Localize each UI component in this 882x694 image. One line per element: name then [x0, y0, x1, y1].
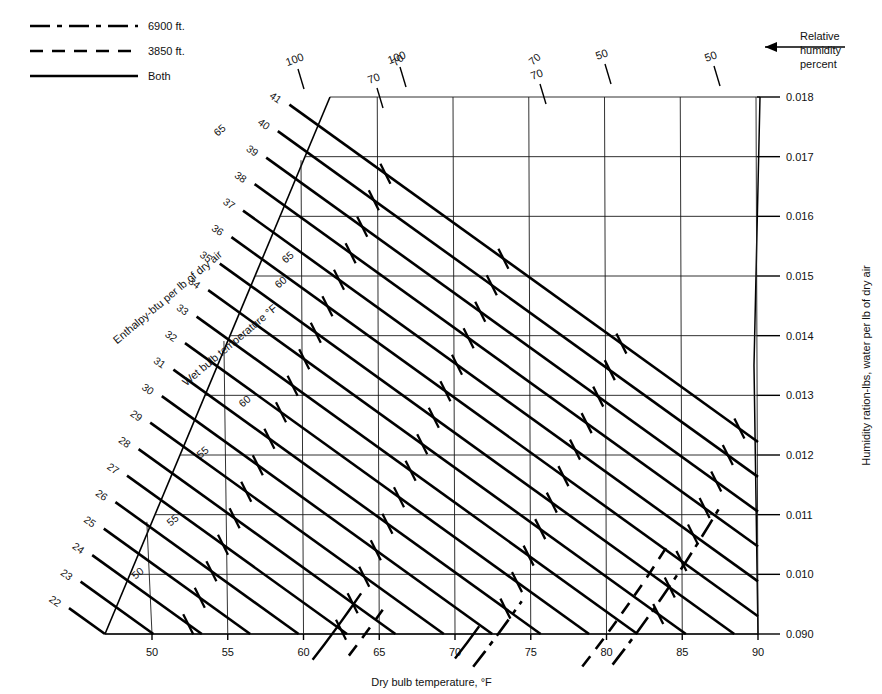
rh-label: 50	[594, 47, 610, 62]
legend-label-0: 6900 ft.	[148, 20, 185, 32]
wetbulb-tick	[230, 508, 240, 528]
enthalpy-label: 31	[151, 354, 168, 371]
rh-label-leader	[400, 67, 406, 87]
tick-label-drybulb: 60	[297, 646, 309, 658]
wetbulb-tick	[547, 493, 557, 513]
enthalpy-label: 33	[175, 301, 192, 318]
wetbulb-tick	[535, 519, 545, 539]
wetbulb-tick	[206, 561, 216, 581]
wetbulb-tick	[605, 360, 615, 380]
gridline-drybulb	[147, 522, 152, 634]
rh-note-line3: percent	[800, 58, 837, 70]
wetbulb-tick	[183, 614, 193, 634]
wetbulb-tick	[500, 599, 510, 619]
wetbulb-tick	[570, 440, 580, 460]
rh-label: 50	[703, 49, 719, 64]
wetbulb-tick	[359, 567, 369, 587]
enthalpy-line	[220, 264, 734, 634]
enthalpy-label: 41	[267, 89, 284, 106]
enthalpy-line	[278, 131, 758, 477]
tick-label-humidity: 0.017	[786, 151, 814, 163]
enthalpy-line	[81, 582, 154, 634]
enthalpy-line	[104, 529, 250, 634]
enthalpy-label: 37	[221, 195, 238, 212]
wetbulb-tick	[264, 429, 274, 449]
gridline-drybulb	[224, 341, 228, 634]
enthalpy-line	[150, 423, 444, 634]
enthalpy-label: 26	[93, 487, 110, 504]
tick-label-humidity: 0.013	[786, 389, 814, 401]
tick-label-humidity: 0.014	[786, 330, 814, 342]
enthalpy-label: 27	[105, 460, 122, 477]
enthalpy-label: 24	[70, 540, 87, 557]
psychrometric-chart: 0.0180.0170.0160.0150.0140.0130.0120.011…	[0, 0, 882, 694]
wetbulb-tick	[394, 487, 404, 507]
tick-label-drybulb: 55	[222, 646, 234, 658]
enthalpy-line	[231, 237, 758, 616]
wetbulb-tick	[334, 270, 344, 290]
rh-label: 100	[284, 50, 305, 68]
wetbulb-tick	[512, 572, 522, 592]
rh-label: 100	[386, 48, 407, 66]
tick-label-humidity: 0.010	[786, 568, 814, 580]
wetbulb-tick	[382, 514, 392, 534]
tick-label-humidity: 0.016	[786, 210, 814, 222]
wetbulb-tick	[524, 546, 534, 566]
wetbulb-tick	[464, 328, 474, 348]
enthalpy-label: 22	[47, 593, 64, 610]
gridline-drybulb	[301, 160, 303, 634]
wetbulb-label: 65	[279, 248, 296, 265]
gridline-drybulb	[529, 97, 531, 634]
wetbulb-tick	[440, 381, 450, 401]
chart-canvas: 0.0180.0170.0160.0150.0140.0130.0120.011…	[0, 0, 882, 694]
enthalpy-label: 25	[82, 513, 99, 530]
tick-label-drybulb: 50	[146, 646, 158, 658]
rh-label-leader	[540, 84, 546, 104]
wetbulb-tick	[417, 434, 427, 454]
tick-label-drybulb: 65	[373, 646, 385, 658]
enthalpy-label: 38	[233, 169, 250, 186]
wetbulb-tick	[241, 482, 251, 502]
tick-label-humidity: 0.012	[786, 449, 814, 461]
enthalpy-line	[92, 555, 202, 634]
tick-label-drybulb: 75	[525, 646, 537, 658]
legend-label-1: 3850 ft.	[148, 45, 185, 57]
wetbulb-label: 70	[526, 50, 543, 67]
tick-label-humidity: 0.018	[786, 91, 814, 103]
enthalpy-line	[173, 370, 540, 634]
wetbulb-tick	[688, 525, 698, 545]
x-axis-title: Dry bulb temperature, °F	[371, 676, 492, 688]
enthalpy-label: 36	[209, 222, 226, 239]
rh-label: 70	[366, 71, 382, 86]
enthalpy-label: 29	[128, 407, 145, 424]
rh-label-leader	[605, 64, 611, 84]
gridline-drybulb	[453, 97, 455, 634]
wetbulb-tick	[288, 376, 298, 396]
wetbulb-tick	[593, 387, 603, 407]
tick-label-humidity: 0.011	[786, 509, 813, 521]
tick-label-drybulb: 80	[600, 646, 612, 658]
wetbulb-tick	[195, 588, 205, 608]
wetbulb-tick	[299, 349, 309, 369]
rh-label-leader	[298, 69, 304, 89]
legend-label-2: Both	[148, 70, 171, 82]
wetbulb-label: 65	[211, 121, 228, 138]
wetbulb-label: 55	[194, 443, 211, 460]
enthalpy-line	[127, 476, 347, 634]
rh-note-line1: Relative	[800, 30, 840, 42]
enthalpy-label: 30	[140, 381, 157, 398]
rh-label: 70	[529, 67, 545, 82]
wetbulb-tick	[475, 302, 485, 322]
enthalpy-line	[115, 502, 298, 634]
rh-label-leader	[714, 66, 720, 86]
wetbulb-tick	[322, 296, 332, 316]
wetbulb-tick	[558, 466, 568, 486]
enthalpy-label: 28	[117, 434, 134, 451]
wetbulb-tick	[276, 402, 286, 422]
tick-label-humidity: 0.090	[786, 628, 814, 640]
enthalpy-line	[208, 290, 686, 634]
wetbulb-tick	[406, 461, 416, 481]
enthalpy-label: 39	[244, 142, 261, 159]
wetbulb-tick	[429, 408, 439, 428]
enthalpy-line	[139, 449, 396, 634]
